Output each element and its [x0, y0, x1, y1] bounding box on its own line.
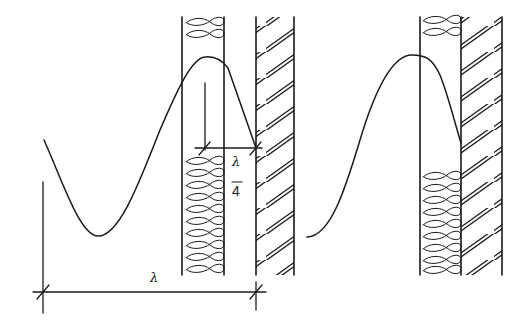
right-panel: [307, 15, 502, 275]
acoustic-diagram: [0, 0, 526, 331]
left-panel: [33, 17, 294, 313]
quarter-lambda-denominator: 4: [232, 183, 240, 199]
rigid-wall-hatch: [461, 17, 502, 275]
sound-wave: [307, 55, 461, 237]
full-lambda-label: λ: [150, 270, 158, 285]
quarter-lambda-numerator: λ: [232, 154, 240, 169]
rigid-wall-hatch: [256, 17, 294, 275]
bottom-insulation: [186, 156, 224, 272]
bottom-insulation: [423, 171, 461, 273]
top-insulation: [423, 15, 461, 35]
top-insulation: [186, 17, 224, 37]
